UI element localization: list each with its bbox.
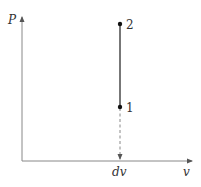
y-axis-label: P (7, 13, 17, 27)
point-1 (118, 105, 122, 109)
pv-diagram: P v dv 2 1 (0, 0, 201, 187)
dv-label: dv (112, 165, 127, 179)
point-2 (118, 22, 122, 26)
x-axis-label: v (183, 165, 190, 179)
point-2-label: 2 (126, 18, 134, 32)
point-1-label: 1 (126, 101, 134, 115)
